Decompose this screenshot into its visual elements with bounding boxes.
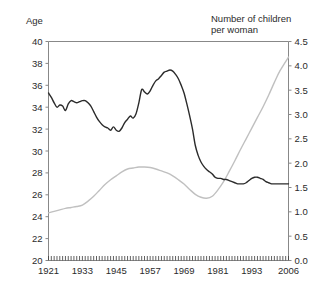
svg-text:3.0: 3.0 bbox=[295, 109, 308, 120]
svg-text:40: 40 bbox=[32, 36, 43, 47]
svg-text:1993: 1993 bbox=[241, 265, 262, 276]
plot-frame bbox=[49, 42, 289, 261]
svg-text:1981: 1981 bbox=[207, 265, 228, 276]
left-axis-ticks: 2022242628303234363840 bbox=[32, 36, 49, 266]
svg-text:2.5: 2.5 bbox=[295, 133, 308, 144]
svg-text:26: 26 bbox=[32, 189, 43, 200]
svg-text:1933: 1933 bbox=[72, 265, 93, 276]
svg-text:24: 24 bbox=[32, 211, 43, 222]
svg-text:1969: 1969 bbox=[173, 265, 194, 276]
svg-text:38: 38 bbox=[32, 58, 43, 69]
svg-text:30: 30 bbox=[32, 146, 43, 157]
svg-text:32: 32 bbox=[32, 124, 43, 135]
svg-text:2.0: 2.0 bbox=[295, 158, 308, 169]
svg-text:1957: 1957 bbox=[140, 265, 161, 276]
svg-text:3.5: 3.5 bbox=[295, 85, 308, 96]
svg-text:1.5: 1.5 bbox=[295, 182, 308, 193]
svg-text:1945: 1945 bbox=[106, 265, 127, 276]
svg-text:2006: 2006 bbox=[278, 265, 299, 276]
svg-text:34: 34 bbox=[32, 102, 43, 113]
x-axis-ticks: 19211933194519571969198119932006 bbox=[38, 256, 299, 276]
plot-svg: 2022242628303234363840 0.00.51.01.52.02.… bbox=[0, 0, 330, 286]
children-per-woman-line bbox=[49, 57, 289, 213]
svg-text:28: 28 bbox=[32, 167, 43, 178]
svg-text:36: 36 bbox=[32, 80, 43, 91]
chart-container: Age Number of children per woman 2022242… bbox=[0, 0, 330, 286]
right-axis-ticks: 0.00.51.01.52.02.53.03.54.04.5 bbox=[289, 36, 308, 266]
svg-text:4.0: 4.0 bbox=[295, 60, 308, 71]
svg-text:22: 22 bbox=[32, 233, 43, 244]
svg-text:1921: 1921 bbox=[38, 265, 59, 276]
svg-text:4.5: 4.5 bbox=[295, 36, 308, 47]
svg-text:0.5: 0.5 bbox=[295, 231, 308, 242]
svg-text:1.0: 1.0 bbox=[295, 206, 308, 217]
